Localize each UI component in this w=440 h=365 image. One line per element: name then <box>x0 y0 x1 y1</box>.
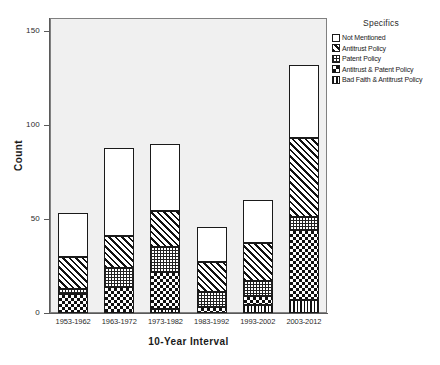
y-axis-tick <box>44 125 50 126</box>
legend-swatch-icon <box>332 44 340 52</box>
bar-segment <box>58 213 88 256</box>
bar-segment <box>289 138 319 217</box>
legend-swatch-icon <box>332 76 340 84</box>
bar-segment <box>104 287 134 313</box>
bar-2003-2012 <box>289 0 319 313</box>
legend-item[interactable]: Antitrust Policy <box>332 44 438 53</box>
bar-segment <box>197 262 227 292</box>
y-axis-title: Count <box>13 116 24 196</box>
bar-segment <box>104 148 134 236</box>
legend-swatch-icon <box>332 65 340 73</box>
bar-segment <box>289 230 319 300</box>
x-axis-title: 10-Year Interval <box>50 336 327 347</box>
legend-item-label: Patent Policy <box>342 55 381 62</box>
bar-segment <box>150 247 180 271</box>
bar-segment <box>243 296 273 305</box>
x-axis-line <box>49 313 328 314</box>
legend-item[interactable]: Antitrust & Patent Policy <box>332 65 438 74</box>
bar-segment <box>197 292 227 307</box>
bar-1983-1992 <box>197 0 227 313</box>
bar-segment <box>243 243 273 281</box>
legend-swatch-icon <box>332 55 340 63</box>
y-axis-tick <box>44 219 50 220</box>
bar-segment <box>150 309 180 313</box>
legend-item[interactable]: Bad Faith & Antitrust Policy <box>332 75 438 84</box>
bar-1973-1982 <box>150 0 180 313</box>
y-axis-tick <box>44 31 50 32</box>
y-axis-tick-label: 0 <box>0 308 40 317</box>
x-axis-tick-label: 2003-2012 <box>274 317 334 326</box>
bar-segment <box>104 268 134 287</box>
bar-segment <box>150 211 180 247</box>
bar-segment <box>58 289 88 295</box>
bar-1993-2002 <box>243 0 273 313</box>
bar-segment <box>104 236 134 268</box>
legend-item[interactable]: Not Mentioned <box>332 33 438 42</box>
chart-container: 050100150 1953-19621963-19721973-1982198… <box>0 0 440 365</box>
legend-item-label: Antitrust & Patent Policy <box>342 66 413 73</box>
bar-segment <box>243 200 273 243</box>
y-axis-tick-label: 50 <box>0 214 40 223</box>
legend-item-label: Bad Faith & Antitrust Policy <box>342 76 422 83</box>
y-axis-line <box>49 18 50 314</box>
bar-segment <box>243 305 273 313</box>
bar-segment <box>289 300 319 313</box>
bar-segment <box>197 307 227 313</box>
bar-segment <box>58 294 88 313</box>
legend-title: Specifics <box>332 18 430 28</box>
bar-segment <box>197 227 227 263</box>
legend-items: Not MentionedAntitrust PolicyPatent Poli… <box>332 33 438 84</box>
y-axis-tick-label: 150 <box>0 26 40 35</box>
bar-1953-1962 <box>58 0 88 313</box>
legend-item-label: Not Mentioned <box>342 34 386 41</box>
bar-segment <box>243 281 273 296</box>
y-axis-tick <box>44 313 50 314</box>
bar-segment <box>289 217 319 230</box>
legend-item[interactable]: Patent Policy <box>332 54 438 63</box>
bar-segment <box>150 144 180 212</box>
bar-1963-1972 <box>104 0 134 313</box>
legend-item-label: Antitrust Policy <box>342 45 386 52</box>
bar-segment <box>289 65 319 138</box>
legend-swatch-icon <box>332 34 340 42</box>
bar-segment <box>58 257 88 289</box>
bar-segment <box>150 272 180 310</box>
plot-area <box>50 18 327 313</box>
legend: Specifics Not MentionedAntitrust PolicyP… <box>332 18 438 86</box>
